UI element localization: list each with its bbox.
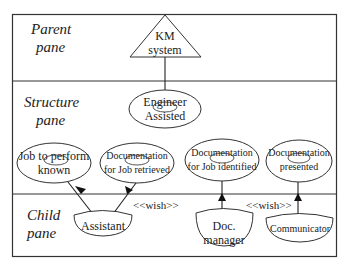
svg-text:Documentation: Documentation [268,147,330,158]
svg-text:Documentation: Documentation [106,150,168,161]
child-pane-label: Child pane [26,207,61,241]
ellipse-shape [185,139,259,181]
node-job-to-perform-known[interactable]: Job to perform known [17,143,91,183]
wish-stereotype-label: <<wish>> [133,199,179,211]
node-doc-presented[interactable]: Documentation presented [266,140,332,182]
svg-text:Assistant: Assistant [81,219,126,233]
node-km-system[interactable]: KM system [130,15,201,57]
wish-stereotype-label: <<wish>> [246,199,292,211]
parent-pane-label: Parent pane [30,21,72,55]
svg-text:Structure: Structure [24,94,80,110]
svg-text:Documentation: Documentation [191,147,253,158]
node-communicator[interactable]: Communicator [266,214,333,243]
node-doc-manager[interactable]: Doc. manager [196,209,253,248]
svg-text:Engineer: Engineer [143,95,186,109]
svg-text:Child: Child [27,207,61,223]
svg-text:Assisted: Assisted [145,109,186,123]
svg-text:Parent: Parent [30,21,72,37]
svg-text:system: system [148,43,182,57]
svg-text:KM: KM [155,29,175,43]
svg-text:Communicator: Communicator [270,223,331,234]
svg-text:pane: pane [26,225,57,241]
km-system-pane-diagram: Parent pane Structure pane Child pane KM… [0,0,346,267]
node-doc-for-job-retrieved[interactable]: Documentation for Job retrieved [100,143,174,183]
svg-text:Job to perform: Job to perform [19,149,90,163]
svg-text:known: known [38,163,71,177]
node-assistant[interactable]: Assistant [74,211,132,237]
svg-text:Doc.: Doc. [213,219,236,233]
node-doc-for-job-identified[interactable]: Documentation for Job identified [185,139,259,181]
svg-text:pane: pane [35,39,66,55]
svg-text:presented: presented [280,161,318,172]
svg-text:manager: manager [203,233,244,247]
svg-text:pane: pane [35,112,66,128]
node-engineer-assisted[interactable]: Engineer Assisted [129,90,201,128]
svg-text:for Job identified: for Job identified [188,161,257,172]
svg-text:for Job retrieved: for Job retrieved [104,164,170,175]
structure-pane-label: Structure pane [24,94,80,128]
ellipse-shape [100,143,174,183]
